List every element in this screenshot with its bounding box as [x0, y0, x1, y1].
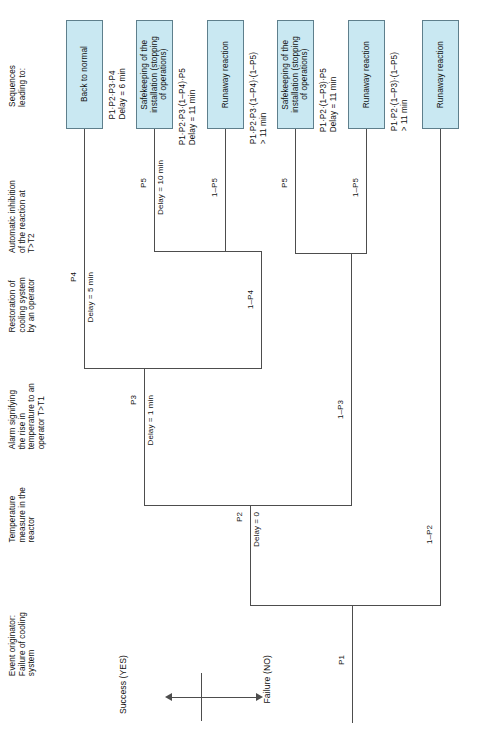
- outcome-sequence-3: P1·P2·P3·(1–P4)·(1–P5) > 11 min: [249, 52, 268, 144]
- tree-line-p5b-failure: [366, 128, 367, 254]
- branch-delay-p4: Delay = 5 min: [86, 272, 95, 322]
- tree-node-p5b-split: [295, 253, 352, 254]
- outcome-sequence-2: P1·P2·P3·(1–P4)·P5 Delay = 11 min: [178, 68, 197, 145]
- branch-label-not-p3: 1–P3: [336, 400, 345, 419]
- outcome-box-safekeeping-1[interactable]: Safekeeping of the installation (stoppin…: [136, 20, 173, 129]
- tree-line-p4-failure: [261, 251, 262, 369]
- column-header-initiator: Event originator: Failure of cooling sys…: [8, 612, 37, 676]
- branch-label-p5-b: P5: [280, 178, 289, 188]
- outcome-sequence-1: P1·P2·P3·P4 Delay = 6 min: [108, 68, 127, 120]
- column-header-restoration: Restoration of cooling system by an oper…: [8, 277, 37, 333]
- outcome-box-runaway-3[interactable]: Runaway reaction: [422, 20, 459, 129]
- tree-line-p5a-success: [154, 128, 155, 252]
- branch-delay-p2: Delay = 0: [252, 512, 261, 547]
- tree-line-p5b-success: [295, 128, 296, 254]
- branch-delay-p5-a: Delay = 10 min: [156, 160, 165, 215]
- outcome-box-runaway-2[interactable]: Runaway reaction: [348, 20, 385, 129]
- branch-label-p5-a: P5: [139, 178, 148, 188]
- branch-label-not-p5-a: 1–P5: [210, 178, 219, 197]
- branch-label-p1: P1: [337, 655, 346, 665]
- branch-label-not-p2: 1–P2: [425, 525, 434, 544]
- outcome-box-label: Runaway reaction: [436, 41, 446, 108]
- outcome-box-back-to-normal[interactable]: Back to normal: [66, 20, 103, 129]
- column-header-inhibition: Automatic inhibition of the reaction at …: [8, 180, 37, 253]
- outcome-box-label: Back to normal: [80, 46, 90, 102]
- axis-arrowhead-success: [165, 693, 172, 701]
- column-header-alarm: Alarm signifying the rise in temperature…: [8, 383, 47, 449]
- branch-label-not-p5-b: 1–P5: [351, 178, 360, 197]
- tree-line-p4-success: [84, 128, 85, 369]
- branch-label-not-p4: 1–P4: [246, 290, 255, 309]
- tree-line-p3-failure: [351, 253, 352, 506]
- outcome-sequence-5: P1·P2·(1–P3)·(1–P5) > 11 min: [390, 52, 409, 131]
- tree-node-p2-split: [250, 605, 353, 606]
- tree-node-p5a-split: [154, 251, 262, 252]
- axis-cross-horizontal: [171, 697, 257, 698]
- outcome-box-label: Runaway reaction: [362, 41, 372, 108]
- outcome-box-label: Safekeeping of the installation (stoppin…: [281, 36, 310, 113]
- axis-label-failure: Failure (NO): [262, 655, 272, 703]
- outcome-box-safekeeping-2[interactable]: Safekeeping of the installation (stoppin…: [277, 20, 314, 129]
- tree-line-p2-failure-join: [352, 605, 441, 606]
- tree-line-p5b-failure-join: [351, 253, 367, 254]
- outcome-sequence-4: P1·P2·(1–P3)·P5 Delay = 11 min: [319, 68, 338, 132]
- column-header-temperature: Temperature measure in the reactor: [8, 487, 37, 543]
- tree-line-p3-success: [144, 368, 145, 506]
- outcome-box-label: Safekeeping of the installation (stoppin…: [140, 36, 169, 113]
- tree-line-trunk-p1: [352, 605, 353, 723]
- branch-delay-p3: Delay = 1 min: [146, 395, 155, 445]
- tree-line-p5a-failure: [225, 128, 226, 252]
- outcome-box-label: Runaway reaction: [221, 41, 231, 108]
- column-header-sequences: Sequences leading to:: [8, 65, 27, 107]
- event-tree-diagram: Event originator: Failure of cooling sys…: [0, 0, 480, 739]
- branch-label-p2: P2: [235, 512, 244, 522]
- axis-label-success: Success (YES): [118, 655, 128, 714]
- branch-label-p4: P4: [69, 272, 78, 282]
- axis-arrowhead-failure: [256, 693, 263, 701]
- tree-node-p3-split: [144, 505, 351, 506]
- tree-line-p2-failure: [440, 126, 441, 606]
- tree-node-p4-split: [84, 368, 262, 369]
- tree-line-p2-success: [250, 505, 251, 606]
- branch-label-p3: P3: [129, 395, 138, 405]
- outcome-box-runaway-1[interactable]: Runaway reaction: [207, 20, 244, 129]
